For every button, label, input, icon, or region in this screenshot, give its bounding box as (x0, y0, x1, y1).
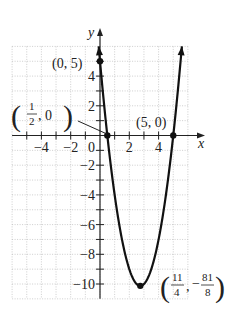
svg-text:(: ( (11, 99, 21, 133)
svg-text:4: 4 (88, 69, 95, 84)
svg-text:−2: −2 (63, 140, 78, 155)
svg-text:−6: −6 (80, 218, 95, 233)
svg-text:2: 2 (29, 115, 35, 127)
x-axis-label: x (197, 136, 205, 151)
point-marker (137, 283, 143, 289)
parabola-curve (99, 46, 182, 286)
leader-line-half (78, 121, 107, 134)
svg-text:−10: −10 (73, 277, 95, 292)
svg-text:1: 1 (29, 100, 35, 112)
y-axis-label: y (86, 25, 95, 40)
key-points (96, 46, 185, 289)
svg-text:): ) (215, 270, 225, 304)
svg-text:−: − (192, 276, 200, 291)
point-marker (97, 58, 103, 64)
svg-text:11: 11 (172, 271, 183, 283)
svg-text:2: 2 (88, 99, 95, 114)
svg-text:): ) (63, 99, 73, 133)
svg-text:−4: −4 (80, 188, 95, 203)
axes (12, 28, 205, 299)
svg-text:−2: −2 (80, 158, 95, 173)
svg-text:4: 4 (155, 140, 162, 155)
svg-text:,: , (186, 279, 190, 294)
svg-text:−8: −8 (80, 247, 95, 262)
svg-text:8: 8 (205, 286, 211, 298)
svg-text:−4: −4 (34, 140, 49, 155)
svg-text:4: 4 (174, 286, 180, 298)
origin-label: 0 (88, 140, 95, 155)
svg-text:2: 2 (126, 140, 133, 155)
point-marker (170, 132, 176, 138)
svg-text:(: ( (160, 270, 170, 304)
point-label-half-0: ( 1 2 , 0 ) (11, 99, 73, 133)
point-label-5-0: (5, 0) (136, 115, 167, 131)
point-label-vertex: ( 11 4 , − 81 8 ) (160, 270, 225, 304)
point-label-0-5: (0, 5) (52, 56, 83, 72)
svg-text:, 0: , 0 (38, 108, 52, 123)
svg-text:81: 81 (202, 271, 213, 283)
parabola-chart: −4−224−10−8−6−4−224 y x 0 (0, 5) (5, 0) … (0, 0, 230, 314)
